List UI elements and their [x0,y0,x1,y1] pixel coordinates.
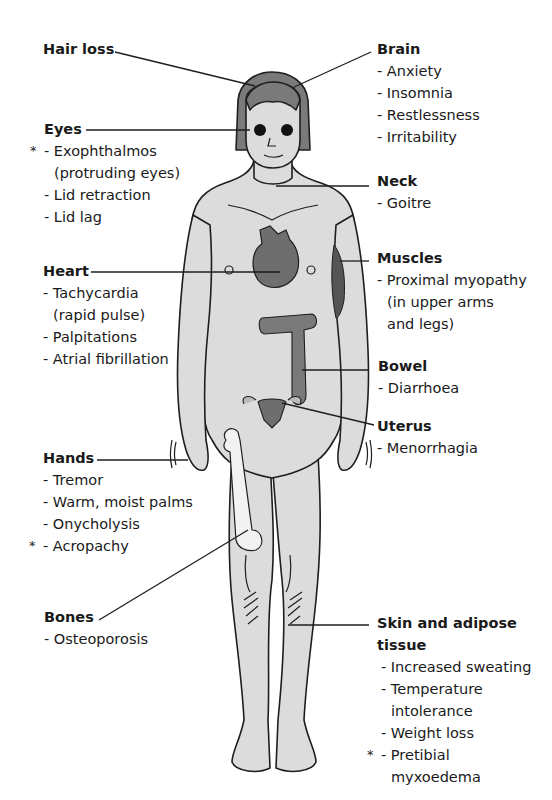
symptom-item: *- Exophthalmos [44,140,180,162]
symptom-item: - Lid retraction [44,184,180,206]
symptom-item: (protruding eyes) [44,162,180,184]
label-title: Skin and adipose [377,612,531,634]
label-title-line2: tissue [377,634,531,656]
symptom-item: - Tremor [43,469,193,491]
symptom-item: - Onycholysis [43,513,193,535]
label-uterus: Uterus - Menorrhagia [377,415,478,459]
label-title: Hair loss [43,38,114,60]
symptom-item: - Tachycardia [43,282,169,304]
label-title: Heart [43,260,169,282]
label-bowel: Bowel - Diarrhoea [378,355,459,399]
label-title: Neck [377,170,431,192]
symptom-item: *- Acropachy [43,535,193,557]
symptom-item: - Osteoporosis [44,628,148,650]
symptom-item: *- Pretibial [377,744,531,766]
label-neck: Neck - Goitre [377,170,431,214]
leader-hair-loss [115,52,255,86]
symptom-item: (rapid pulse) [43,304,169,326]
symptom-item: - Insomnia [377,82,480,104]
symptom-item: myxoedema [377,766,531,788]
label-title: Eyes [44,118,180,140]
label-title: Hands [43,447,193,469]
symptom-item: and legs) [377,313,527,335]
symptom-item: (in upper arms [377,291,527,313]
right-leg [272,455,320,771]
symptom-item: - Irritability [377,126,480,148]
leader-brain [292,52,371,88]
label-muscles: Muscles - Proximal myopathy (in upper ar… [377,247,527,335]
left-arm [177,215,211,470]
label-skin-adipose: Skin and adipose tissue - Increased swea… [377,612,531,788]
marker-asterisk: * [30,140,37,162]
right-arm [335,215,369,470]
label-title: Bones [44,606,148,628]
label-heart: Heart - Tachycardia (rapid pulse) - Palp… [43,260,169,370]
symptom-item: - Restlessness [377,104,480,126]
label-eyes: Eyes *- Exophthalmos (protruding eyes) -… [44,118,180,228]
label-hands: Hands - Tremor - Warm, moist palms - Ony… [43,447,193,557]
symptom-item: - Proximal myopathy [377,269,527,291]
symptom-item: - Palpitations [43,326,169,348]
symptom-item: - Temperature [377,678,531,700]
symptom-item: - Increased sweating [377,656,531,678]
label-bones: Bones - Osteoporosis [44,606,148,650]
symptom-item: - Diarrhoea [378,377,459,399]
symptom-item: intolerance [377,700,531,722]
label-title: Muscles [377,247,527,269]
symptom-item: - Weight loss [377,722,531,744]
label-title: Uterus [377,415,478,437]
marker-asterisk: * [29,535,36,557]
label-brain: Brain - Anxiety - Insomnia - Restlessnes… [377,38,480,148]
symptom-item: - Atrial fibrillation [43,348,169,370]
label-title: Brain [377,38,480,60]
label-title: Bowel [378,355,459,377]
symptom-item: - Menorrhagia [377,437,478,459]
symptom-item: - Goitre [377,192,431,214]
symptom-item: - Warm, moist palms [43,491,193,513]
symptom-item: - Lid lag [44,206,180,228]
label-hair-loss: Hair loss [43,38,114,60]
symptom-item: - Anxiety [377,60,480,82]
marker-asterisk: * [367,744,374,766]
